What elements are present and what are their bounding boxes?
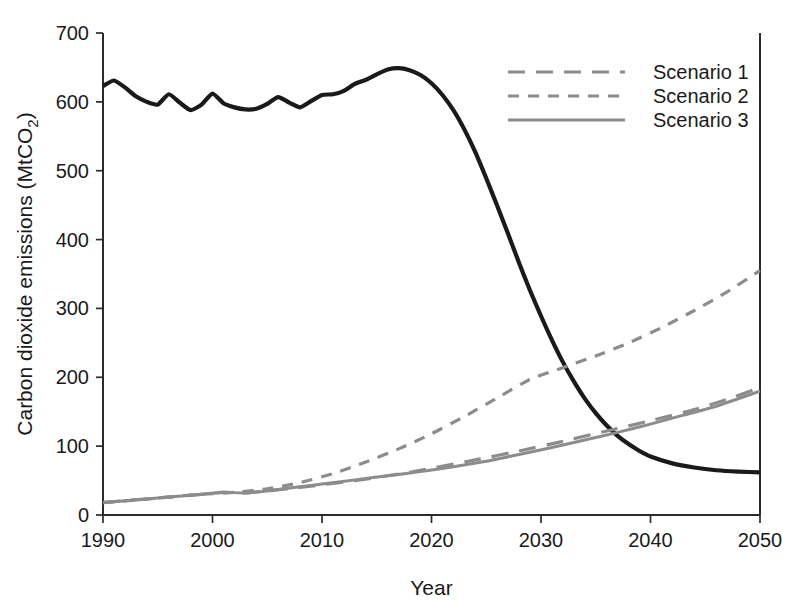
series-line-scenario-3 [103,391,760,503]
chart-canvas: 0100200300400500600700199020002010202020… [0,0,797,610]
x-axis-title: Year [410,576,452,599]
legend-label-scenario-3: Scenario 3 [653,109,749,131]
y-axis-title: Carbon dioxide emissions (MtCO2) [13,112,41,435]
series-line-scenario-1 [103,388,760,503]
x-axis-ticks: 1990200020102020203020402050 [81,515,783,551]
y-tick-label: 0 [78,504,89,526]
series-group [103,68,760,502]
y-tick-label: 600 [56,91,89,113]
x-tick-label: 2050 [738,529,783,551]
y-axis-title-subscript: 2 [24,119,41,127]
series-line-scenario-2 [103,271,760,503]
x-tick-label: 2000 [190,529,235,551]
x-tick-label: 2030 [519,529,564,551]
legend-label-scenario-2: Scenario 2 [653,85,749,107]
y-axis-title-text: Carbon dioxide emissions (MtCO2) [13,112,41,435]
y-tick-label: 300 [56,297,89,319]
y-tick-label: 200 [56,366,89,388]
y-tick-label: 700 [56,22,89,44]
x-tick-label: 2010 [300,529,345,551]
y-tick-label: 100 [56,435,89,457]
y-axis-title-paren: ) [13,112,36,119]
x-tick-label: 2040 [628,529,673,551]
y-axis-ticks: 0100200300400500600700 [56,22,103,526]
y-tick-label: 500 [56,160,89,182]
x-tick-label: 2020 [409,529,454,551]
x-tick-label: 1990 [81,529,126,551]
y-tick-label: 400 [56,229,89,251]
legend-label-scenario-1: Scenario 1 [653,61,749,83]
chart-figure: 0100200300400500600700199020002010202020… [0,0,797,610]
legend: Scenario 1Scenario 2Scenario 3 [508,61,749,131]
y-axis-title-main: Carbon dioxide emissions (MtCO [13,128,36,436]
